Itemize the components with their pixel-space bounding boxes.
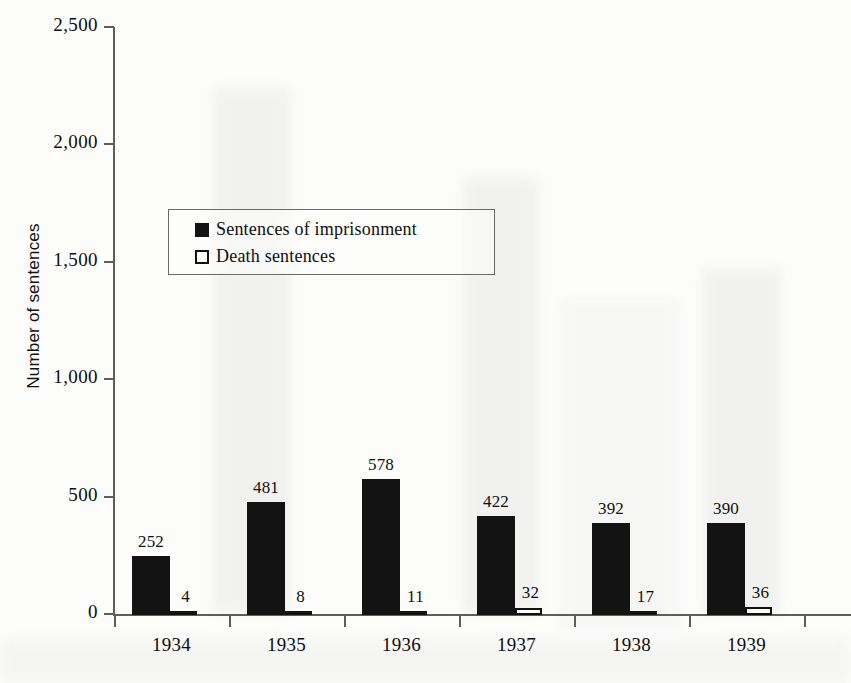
x-axis-tick [114,616,116,627]
value-label-death-1934: 4 [168,587,203,607]
value-label-death-1939: 36 [743,583,778,603]
value-label-prison-1936: 578 [358,455,404,475]
x-axis-tick [459,616,461,627]
bar-death-1939 [745,607,772,615]
x-axis-tick [804,616,806,627]
x-axis-tick [229,616,231,627]
value-label-death-1935: 8 [283,587,318,607]
value-label-prison-1938: 392 [588,499,634,519]
bar-prison-1938 [592,523,630,615]
bar-death-1935 [285,611,312,615]
x-axis-label-1936: 1936 [342,634,462,656]
bar-prison-1934 [132,556,170,615]
chart-legend: Sentences of imprisonment Death sentence… [168,209,495,275]
bar-prison-1935 [247,502,285,615]
open-square-icon [195,250,209,264]
bar-death-1934 [170,611,197,615]
x-axis-label-1939: 1939 [687,634,807,656]
value-label-death-1937: 32 [513,583,548,603]
filled-square-icon [195,223,209,237]
legend-label-death: Death sentences [216,246,335,267]
value-label-death-1938: 17 [628,587,663,607]
x-axis-tick [689,616,691,627]
legend-item-prison: Sentences of imprisonment [195,216,494,243]
bar-prison-1939 [707,523,745,615]
value-label-prison-1935: 481 [243,478,289,498]
bar-chart: Number of sentences 2,5002,0001,5001,000… [0,0,851,683]
bar-prison-1937 [477,516,515,615]
x-axis-tick [344,616,346,627]
legend-label-prison: Sentences of imprisonment [216,219,417,240]
value-label-death-1936: 11 [398,587,433,607]
legend-item-death: Death sentences [195,243,494,270]
value-label-prison-1934: 252 [128,532,174,552]
x-axis-label-1938: 1938 [572,634,692,656]
bar-death-1937 [515,608,542,616]
bar-prison-1936 [362,479,400,615]
x-axis-label-1934: 1934 [112,634,232,656]
bar-death-1936 [400,611,427,615]
x-axis-label-1937: 1937 [457,634,577,656]
value-label-prison-1937: 422 [473,492,519,512]
x-axis-tick [574,616,576,627]
bars-layer: 2524481857811422323921739036 [0,0,851,615]
bar-death-1938 [630,611,657,615]
value-label-prison-1939: 390 [703,499,749,519]
x-axis-label-1935: 1935 [227,634,347,656]
